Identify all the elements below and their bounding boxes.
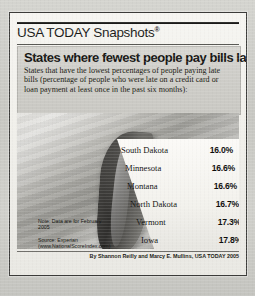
- state-value: 16.7%: [216, 199, 239, 209]
- top-rule: [17, 22, 239, 24]
- state-value: 16.6%: [212, 163, 235, 173]
- data-rows: South Dakota 16.0% Minnesota 16.6% Monta…: [117, 139, 239, 249]
- state-label: Minnesota: [125, 163, 161, 173]
- illustration-photo: South Dakota 16.0% Minnesota 16.6% Monta…: [17, 113, 239, 249]
- table-row: South Dakota 16.0%: [121, 141, 233, 159]
- state-value: 16.6%: [214, 181, 237, 191]
- table-row: Iowa 17.8%: [141, 231, 239, 249]
- state-label: Montana: [127, 181, 158, 191]
- state-value: 17.8%: [219, 235, 239, 245]
- table-row: North Dakota 16.7%: [130, 195, 239, 213]
- state-label: Iowa: [141, 235, 158, 245]
- snapshot-infographic: USA TODAY Snapshots® States where fewest…: [0, 0, 255, 296]
- byline-year: 2005: [227, 253, 239, 259]
- page-title: States where fewest people pay bills lat…: [24, 50, 238, 65]
- brand-title-text: USA TODAY Snapshots: [17, 25, 154, 40]
- data-source: Source: Experian (www.NationalScoreIndex…: [38, 237, 110, 249]
- table-row: Minnesota 16.6%: [125, 159, 235, 177]
- bottom-rule: [17, 251, 239, 252]
- infographic-card: USA TODAY Snapshots® States where fewest…: [9, 12, 247, 276]
- brand-title: USA TODAY Snapshots®: [17, 25, 241, 40]
- state-label: Vermont: [136, 217, 166, 227]
- byline-authors: By Shannon Reilly and Marcy E. Mullins, …: [90, 253, 226, 259]
- table-row: Vermont 17.3%: [136, 213, 239, 231]
- byline: By Shannon Reilly and Marcy E. Mullins, …: [70, 253, 239, 260]
- table-row: Montana 16.6%: [127, 177, 237, 195]
- state-label: North Dakota: [130, 199, 177, 209]
- registered-mark-icon: ®: [154, 26, 159, 33]
- state-value: 16.0%: [210, 145, 233, 155]
- subtitle-text: States that have the lowest percentages …: [24, 66, 231, 94]
- brand-underrule: [17, 44, 239, 45]
- state-label: South Dakota: [121, 145, 168, 155]
- state-value: 17.3%: [218, 217, 239, 227]
- data-note: Note: Data are for February 2005: [38, 218, 110, 230]
